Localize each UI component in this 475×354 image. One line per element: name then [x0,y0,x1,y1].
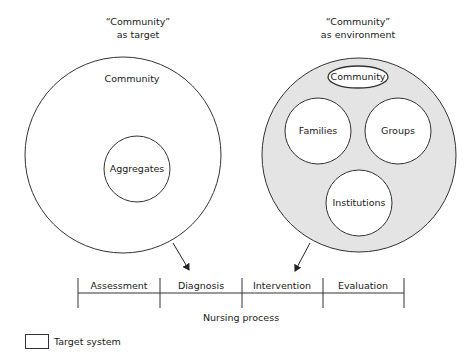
institutions-label: Institutions [332,197,385,208]
aggregates-label: Aggregates [110,163,165,174]
left-title-line2: as target [117,29,160,40]
left-title-line1: “Community” [106,16,171,27]
step-assessment: Assessment [91,280,148,291]
right-title-line2: as environment [321,29,396,40]
step-evaluation: Evaluation [338,280,388,291]
community-diagram: “Community” as target Community Aggregat… [0,0,475,354]
legend-label: Target system [53,336,121,347]
arrow-to-diagnosis [173,243,189,270]
families-label: Families [299,125,337,136]
step-intervention: Intervention [253,280,311,291]
arrow-to-intervention [295,243,310,271]
target-community-label: Community [105,73,160,84]
groups-label: Groups [381,125,415,136]
community-oval-label: Community [331,71,386,82]
step-diagnosis: Diagnosis [178,280,224,291]
nursing-process-label: Nursing process [203,312,279,323]
right-title-line1: “Community” [326,16,391,27]
legend-swatch [26,335,49,349]
